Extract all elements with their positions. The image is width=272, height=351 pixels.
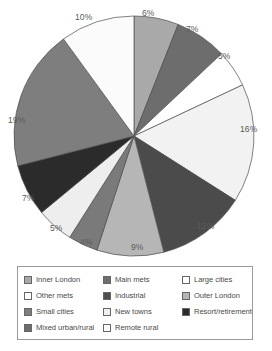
legend-item[interactable]: Industrial: [103, 288, 182, 304]
legend-color-swatch: [24, 308, 32, 316]
legend-item-label: Other mets: [36, 292, 73, 300]
pie-slice-percentage: 7%: [186, 25, 199, 34]
pie-slice-percentage: 10%: [75, 13, 92, 22]
pie-chart-figure: 6%7%5%16%12%9%4%5%7%19%10% Inner LondonM…: [0, 0, 272, 351]
legend-item-label: Outer London: [194, 292, 240, 300]
pie-slice-percentage: 5%: [218, 52, 231, 61]
legend-item-label: Remote rural: [115, 324, 158, 332]
legend-item-label: Large cities: [194, 276, 232, 284]
legend-item[interactable]: Inner London: [24, 272, 103, 288]
pie-slice-percentage: 16%: [240, 125, 257, 134]
legend-items-grid: Inner LondonMain metsLarge citiesOther m…: [24, 272, 248, 336]
legend-item[interactable]: Other mets: [24, 288, 103, 304]
legend-color-swatch: [182, 292, 190, 300]
pie-slice-percentage: 7%: [22, 194, 35, 203]
legend-color-swatch: [24, 324, 32, 332]
legend-color-swatch: [182, 308, 190, 316]
legend-item[interactable]: Outer London: [182, 288, 262, 304]
legend-color-swatch: [24, 276, 32, 284]
legend-item-label: Industrial: [115, 292, 145, 300]
pie-slice-percentage: 19%: [8, 116, 25, 125]
legend-item-label: Small cities: [36, 308, 74, 316]
legend-item[interactable]: Main mets: [103, 272, 182, 288]
legend-item-label: Inner London: [36, 276, 80, 284]
pie-slice-percentage: 4%: [80, 238, 93, 247]
legend-item-label: Resort/retirement: [194, 308, 252, 316]
legend-item[interactable]: Remote rural: [103, 320, 182, 336]
legend-item[interactable]: Mixed urban/rural: [24, 320, 103, 336]
legend-item-label: Main mets: [115, 276, 150, 284]
pie-chart-svg: [0, 0, 272, 258]
legend-color-swatch: [182, 276, 190, 284]
legend-color-swatch: [24, 292, 32, 300]
legend-item[interactable]: Small cities: [24, 304, 103, 320]
legend-color-swatch: [103, 276, 111, 284]
legend-color-swatch: [103, 324, 111, 332]
pie-slice-percentage: 9%: [131, 243, 144, 252]
legend-color-swatch: [103, 308, 111, 316]
legend-item[interactable]: New towns: [103, 304, 182, 320]
pie-slice-percentage: 5%: [50, 224, 63, 233]
legend-item[interactable]: Resort/retirement: [182, 304, 262, 320]
legend-item[interactable]: Large cities: [182, 272, 262, 288]
pie-slice-percentage: 6%: [142, 9, 155, 18]
legend-item-label: New towns: [115, 308, 152, 316]
pie-chart-plot-area: 6%7%5%16%12%9%4%5%7%19%10%: [0, 0, 272, 258]
legend-item-label: Mixed urban/rural: [36, 324, 94, 332]
chart-legend: Inner LondonMain metsLarge citiesOther m…: [17, 266, 253, 340]
legend-color-swatch: [103, 292, 111, 300]
pie-slice-percentage: 12%: [197, 222, 214, 231]
